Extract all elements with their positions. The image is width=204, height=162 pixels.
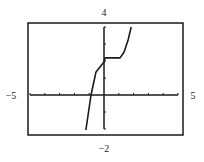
ymin-label: −2	[99, 144, 110, 154]
ymax-label: 4	[102, 8, 107, 18]
function-curve	[86, 27, 131, 130]
xmax-label: 5	[191, 91, 196, 101]
xmin-label: −5	[6, 91, 17, 101]
graph-canvas	[0, 0, 204, 162]
viewing-window-frame	[28, 23, 183, 135]
